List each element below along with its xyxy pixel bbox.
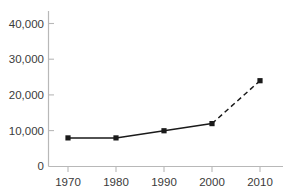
marker-layer bbox=[65, 78, 262, 140]
x-tick-label-1980: 1980 bbox=[103, 176, 129, 188]
line-chart: 40,000 30,000 20,000 10,000 0 1970 1980 … bbox=[0, 0, 287, 192]
data-point-1970 bbox=[65, 135, 70, 140]
y-tick-label-20000: 20,000 bbox=[9, 89, 44, 101]
data-point-1980 bbox=[113, 135, 118, 140]
x-tick-label-1970: 1970 bbox=[55, 176, 81, 188]
data-point-2000 bbox=[209, 121, 214, 126]
x-tick-label-1990: 1990 bbox=[151, 176, 177, 188]
x-tick-label-2010: 2010 bbox=[247, 176, 273, 188]
y-tick-label-40000: 40,000 bbox=[9, 18, 44, 30]
data-point-2010 bbox=[257, 78, 262, 83]
y-tick-label-30000: 30,000 bbox=[9, 53, 44, 65]
x-tick-label-2000: 2000 bbox=[199, 176, 225, 188]
series-line-projected bbox=[212, 81, 260, 124]
y-tick-label-10000: 10,000 bbox=[9, 125, 44, 137]
data-point-1990 bbox=[161, 128, 166, 133]
chart-canvas: 40,000 30,000 20,000 10,000 0 1970 1980 … bbox=[0, 0, 287, 192]
series-line-observed bbox=[68, 124, 212, 138]
y-tick-label-0: 0 bbox=[38, 160, 44, 172]
